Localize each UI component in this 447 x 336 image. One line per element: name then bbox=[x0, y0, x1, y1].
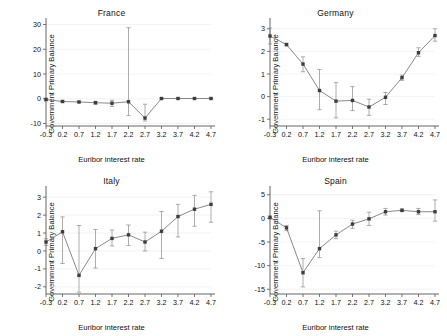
x-tick-label: 0.7 bbox=[74, 130, 84, 139]
x-tick-label: 4.2 bbox=[190, 130, 200, 139]
x-tick-label: 3.2 bbox=[381, 298, 391, 307]
y-tick-label: 0 bbox=[37, 94, 41, 103]
x-tick-label: 4.2 bbox=[190, 298, 200, 307]
x-tick-label: 0.7 bbox=[298, 298, 308, 307]
error-bars bbox=[44, 192, 213, 292]
y-tick-label: 0 bbox=[37, 247, 41, 256]
data-point bbox=[44, 98, 47, 101]
data-point bbox=[400, 76, 403, 79]
x-tick-label: 3.2 bbox=[157, 298, 167, 307]
data-point bbox=[351, 99, 354, 102]
x-tick-label: 1.2 bbox=[91, 298, 101, 307]
y-tick-label: 20 bbox=[33, 45, 41, 54]
data-point bbox=[61, 100, 64, 103]
data-point bbox=[193, 207, 196, 210]
data-point bbox=[77, 100, 80, 103]
x-tick-label: 3.7 bbox=[397, 298, 407, 307]
data-point bbox=[367, 217, 370, 220]
y-tick-label: 0 bbox=[261, 92, 265, 101]
y-tick-label: 0 bbox=[261, 214, 265, 223]
panel-france: FranceGovernment Primary BalanceEuribor … bbox=[0, 0, 223, 168]
y-tick-label: 10 bbox=[33, 70, 41, 79]
x-tick-label: -0.3 bbox=[264, 298, 276, 307]
x-tick-label: 3.2 bbox=[381, 130, 391, 139]
y-tick-label: 1 bbox=[261, 70, 265, 79]
y-tick-label: -15 bbox=[255, 285, 265, 294]
data-point bbox=[268, 34, 271, 37]
x-tick-label: 2.7 bbox=[140, 298, 150, 307]
y-tick-label: 3 bbox=[37, 193, 41, 202]
y-tick-label: -10 bbox=[255, 261, 265, 270]
x-tick-label: 0.2 bbox=[58, 130, 68, 139]
data-point bbox=[400, 209, 403, 212]
data-point bbox=[334, 99, 337, 102]
x-tick-label: 0.7 bbox=[298, 130, 308, 139]
y-tick-label: 30 bbox=[33, 20, 41, 29]
x-tick-label: 0.7 bbox=[74, 298, 84, 307]
y-tick-label: -2 bbox=[35, 282, 41, 291]
x-tick-label: 1.7 bbox=[107, 130, 117, 139]
x-tick-label: -0.3 bbox=[40, 130, 52, 139]
data-point bbox=[417, 51, 420, 54]
data-point bbox=[417, 210, 420, 213]
data-point bbox=[176, 215, 179, 218]
panel-italy: ItalyGovernment Primary BalanceEuribor i… bbox=[0, 168, 223, 336]
data-point bbox=[318, 89, 321, 92]
data-point bbox=[44, 240, 47, 243]
x-tick-label: 4.2 bbox=[414, 130, 424, 139]
data-point bbox=[285, 226, 288, 229]
data-point bbox=[285, 43, 288, 46]
data-point bbox=[268, 216, 271, 219]
data-point bbox=[433, 34, 436, 37]
x-tick-label: 4.7 bbox=[206, 298, 216, 307]
data-point bbox=[433, 210, 436, 213]
error-bars bbox=[44, 28, 213, 121]
data-point bbox=[193, 97, 196, 100]
x-tick-label: 1.2 bbox=[315, 298, 325, 307]
x-tick-label: 3.2 bbox=[157, 130, 167, 139]
error-bars bbox=[268, 200, 437, 287]
x-tick-label: 3.7 bbox=[397, 130, 407, 139]
plot-area: -100102030-0.30.20.71.21.72.22.73.23.74.… bbox=[0, 0, 223, 168]
x-tick-label: 2.7 bbox=[140, 130, 150, 139]
data-point bbox=[351, 222, 354, 225]
data-point bbox=[160, 97, 163, 100]
plot-area: -2-10123-0.30.20.71.21.72.22.73.23.74.24… bbox=[0, 168, 223, 336]
data-point bbox=[143, 240, 146, 243]
x-tick-label: 2.2 bbox=[348, 298, 358, 307]
x-tick-label: 0.2 bbox=[282, 130, 292, 139]
data-point bbox=[176, 97, 179, 100]
y-tick-label: -1 bbox=[35, 264, 41, 273]
x-tick-label: 1.7 bbox=[331, 130, 341, 139]
x-tick-label: 2.7 bbox=[364, 298, 374, 307]
data-point bbox=[209, 97, 212, 100]
series-line bbox=[270, 210, 435, 272]
data-point bbox=[77, 274, 80, 277]
y-tick-label: 2 bbox=[261, 47, 265, 56]
x-tick-label: 4.7 bbox=[206, 130, 216, 139]
x-tick-label: 4.2 bbox=[414, 298, 424, 307]
plot-area: -15-10-505-0.30.20.71.21.72.22.73.23.74.… bbox=[224, 168, 447, 336]
x-tick-label: -0.3 bbox=[40, 298, 52, 307]
data-point bbox=[143, 116, 146, 119]
data-point bbox=[61, 230, 64, 233]
x-tick-label: 1.7 bbox=[331, 298, 341, 307]
data-point bbox=[334, 233, 337, 236]
data-point bbox=[94, 101, 97, 104]
data-point bbox=[160, 230, 163, 233]
y-tick-label: 3 bbox=[261, 24, 265, 33]
x-tick-label: 2.2 bbox=[124, 130, 134, 139]
x-tick-label: 2.2 bbox=[348, 130, 358, 139]
x-tick-label: 1.7 bbox=[107, 298, 117, 307]
error-bars bbox=[268, 28, 437, 118]
y-tick-label: 5 bbox=[261, 190, 265, 199]
data-point bbox=[209, 203, 212, 206]
data-point bbox=[94, 247, 97, 250]
figure-panel-grid: FranceGovernment Primary BalanceEuribor … bbox=[0, 0, 447, 336]
x-tick-label: 0.2 bbox=[282, 298, 292, 307]
data-point bbox=[318, 247, 321, 250]
x-tick-label: 4.7 bbox=[430, 130, 440, 139]
plot-area: -10123-0.30.20.71.21.72.22.73.23.74.24.7 bbox=[224, 0, 447, 168]
x-tick-label: 4.7 bbox=[430, 298, 440, 307]
x-tick-label: 3.7 bbox=[173, 130, 183, 139]
